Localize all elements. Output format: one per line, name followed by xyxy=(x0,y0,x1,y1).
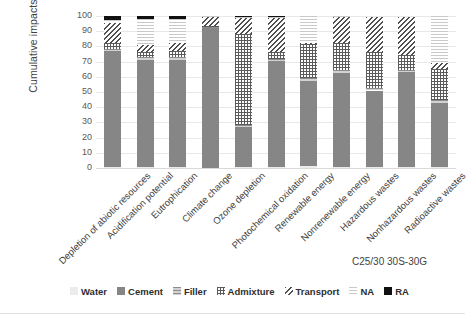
bar-segment-na xyxy=(137,19,154,45)
legend-item-filler[interactable]: Filler xyxy=(173,286,207,297)
bar-segment-transport xyxy=(398,17,415,55)
bar-segment-cement xyxy=(202,28,219,168)
bar-segment-filler xyxy=(431,100,448,103)
bar-segment-filler xyxy=(169,57,186,60)
legend-swatch-icon xyxy=(285,287,293,295)
legend-swatch-icon xyxy=(117,287,125,295)
bar-segment-admixture xyxy=(202,26,219,27)
y-tick-label: 30 xyxy=(66,116,92,126)
bar-segment-transport xyxy=(268,18,285,53)
bar-segment-transport xyxy=(366,17,383,52)
bar-11[interactable] xyxy=(431,16,448,168)
bar-6[interactable] xyxy=(268,16,285,168)
bar-segment-admixture xyxy=(333,43,350,70)
bar-segment-admixture xyxy=(268,52,285,58)
bar-segment-filler xyxy=(137,57,154,60)
bar-segment-filler xyxy=(202,27,219,28)
bar-segment-admixture xyxy=(137,52,154,57)
bar-3[interactable] xyxy=(169,16,186,168)
bar-2[interactable] xyxy=(137,16,154,168)
y-tick-label: 20 xyxy=(66,132,92,142)
bar-9[interactable] xyxy=(366,16,383,168)
bar-segment-filler xyxy=(366,88,383,90)
bar-4[interactable] xyxy=(202,16,219,168)
bar-segment-cement xyxy=(431,103,448,168)
legend-swatch-icon xyxy=(173,287,181,295)
legend-label: RA xyxy=(395,286,409,297)
legend-item-cement[interactable]: Cement xyxy=(117,286,163,297)
bar-segment-cement xyxy=(169,60,186,167)
bar-segment-na xyxy=(333,16,350,17)
bottom-divider xyxy=(0,313,465,314)
bar-segment-transport xyxy=(431,63,448,69)
legend-label: Filler xyxy=(184,286,207,297)
bar-5[interactable] xyxy=(235,16,252,168)
bar-1[interactable] xyxy=(104,16,121,168)
legend-item-na[interactable]: NA xyxy=(349,286,374,297)
bar-segment-ra xyxy=(137,16,154,19)
y-tick-label: 80 xyxy=(66,40,92,50)
bar-segment-ra xyxy=(104,16,121,20)
bar-8[interactable] xyxy=(333,16,350,168)
bar-10[interactable] xyxy=(398,16,415,168)
bar-segment-admixture xyxy=(398,55,415,70)
bar-segment-admixture xyxy=(300,44,317,77)
y-tick-label: 100 xyxy=(66,10,92,20)
bar-segment-na xyxy=(268,17,285,18)
bar-segment-transport xyxy=(169,43,186,51)
legend-label: Transport xyxy=(296,286,340,297)
y-tick-label: 70 xyxy=(66,56,92,66)
bar-segment-transport xyxy=(300,43,317,44)
bar-segment-filler xyxy=(398,70,415,72)
bar-segment-admixture xyxy=(235,34,252,125)
bar-segment-cement xyxy=(300,81,317,167)
bar-segment-na xyxy=(169,19,186,43)
bar-segment-na xyxy=(202,16,219,17)
bar-segment-na xyxy=(235,17,252,18)
bar-segment-transport xyxy=(104,23,121,43)
bar-segment-ra xyxy=(268,16,285,17)
legend-item-ra[interactable]: RA xyxy=(384,286,409,297)
bar-segment-cement xyxy=(268,61,285,167)
legend-item-transport[interactable]: Transport xyxy=(285,286,340,297)
legend-item-water[interactable]: Water xyxy=(70,286,107,297)
chart-caption: C25/30 30S-30G xyxy=(352,256,427,267)
y-tick-label: 90 xyxy=(66,25,92,35)
legend-swatch-icon xyxy=(384,287,392,295)
legend-swatch-icon xyxy=(70,287,78,295)
bar-7[interactable] xyxy=(300,16,317,168)
bar-segment-cement xyxy=(333,73,350,167)
bar-segment-na xyxy=(104,20,121,23)
bar-segment-filler xyxy=(235,125,252,127)
legend-label: Admixture xyxy=(228,286,275,297)
bar-segment-admixture xyxy=(366,52,383,88)
legend-item-admixture[interactable]: Admixture xyxy=(217,286,275,297)
bar-segment-cement xyxy=(235,127,252,167)
bar-segment-cement xyxy=(366,91,383,168)
legend-swatch-icon xyxy=(217,287,225,295)
bar-segment-ra xyxy=(169,16,186,19)
y-tick-label: 50 xyxy=(66,86,92,96)
legend-swatch-icon xyxy=(349,287,357,295)
y-axis-tick-labels: 1009080706050403020100 xyxy=(66,16,92,168)
x-tick-label: Depletion of abiotic resources xyxy=(57,170,153,266)
bar-segment-transport xyxy=(137,45,154,52)
bar-segment-transport xyxy=(333,17,350,43)
bar-segment-na xyxy=(300,16,317,43)
y-tick-label: 40 xyxy=(66,101,92,111)
bar-segment-filler xyxy=(268,59,285,61)
bar-segment-na xyxy=(431,16,448,63)
bar-segment-transport xyxy=(202,17,219,26)
y-axis-title: Cumulative impacts xyxy=(27,0,39,126)
legend-label: Cement xyxy=(128,286,163,297)
bar-segment-cement xyxy=(104,51,121,167)
bar-segment-admixture xyxy=(169,51,186,57)
legend-label: NA xyxy=(360,286,374,297)
y-tick-label: 60 xyxy=(66,71,92,81)
plot-area xyxy=(96,16,456,168)
bar-segment-ra xyxy=(235,16,252,17)
bar-segment-admixture xyxy=(104,43,121,49)
y-tick-label: 10 xyxy=(66,147,92,157)
bar-segment-transport xyxy=(235,18,252,35)
